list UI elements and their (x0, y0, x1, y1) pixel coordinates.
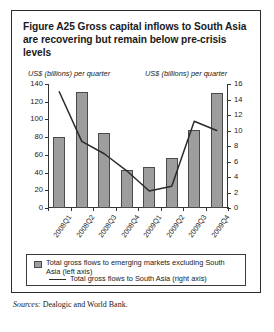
left-tick-label: 120 (30, 98, 43, 106)
x-tick-mark (206, 207, 207, 211)
plot-area: 020406080100120140 0246810121416 2008Q12… (48, 84, 228, 208)
left-tick-label: 0 (39, 204, 43, 212)
left-tick-label: 60 (35, 151, 43, 159)
x-category-label: 2008Q4 (119, 213, 141, 239)
right-tick-label: 6 (234, 158, 238, 166)
x-category-label: 2008Q2 (74, 213, 96, 239)
right-tick-label: 0 (234, 204, 238, 212)
left-tick-label: 100 (30, 115, 43, 123)
x-category-label: 2009Q4 (209, 213, 231, 239)
x-tick-mark (161, 207, 162, 211)
right-tick-label: 2 (234, 189, 238, 197)
legend: Total gross flows to emerging markets ex… (26, 254, 246, 286)
x-category-label: 2008Q3 (97, 213, 119, 239)
x-tick-mark (116, 207, 117, 211)
right-tick-label: 4 (234, 173, 238, 181)
left-tick-label: 40 (35, 169, 43, 177)
x-tick-mark (48, 207, 49, 211)
x-category-label: 2009Q3 (187, 213, 209, 239)
right-tick-label: 10 (234, 127, 242, 135)
figure-panel: Figure A25 Gross capital inflows to Sout… (11, 10, 261, 293)
x-tick-mark (228, 207, 229, 211)
legend-item-line: Total gross flows to South Asia (right a… (49, 275, 207, 284)
figure-title: Figure A25 Gross capital inflows to Sout… (23, 20, 249, 60)
right-tick-label: 16 (234, 80, 242, 88)
x-category-label: 2009Q2 (164, 213, 186, 239)
x-category-label: 2009Q1 (142, 213, 164, 239)
left-tick-label: 140 (30, 80, 43, 88)
line-series (48, 84, 228, 208)
right-axis-unit-label: US$ (billions) per quarter (145, 69, 227, 78)
right-tick-label: 14 (234, 96, 242, 104)
x-category-label: 2008Q1 (52, 213, 74, 239)
left-tick-label: 20 (35, 186, 43, 194)
bar-swatch-icon (34, 261, 42, 268)
right-tick-label: 8 (234, 142, 238, 150)
sources-note: Sources: Dealogic and World Bank. (13, 300, 128, 309)
x-tick-mark (183, 207, 184, 211)
legend-label-line: Total gross flows to South Asia (right a… (70, 275, 207, 284)
x-tick-mark (71, 207, 72, 211)
x-tick-mark (138, 207, 139, 211)
left-tick-label: 80 (35, 133, 43, 141)
right-tick-label: 12 (234, 111, 242, 119)
left-axis-unit-label: US$ (billions) per quarter (28, 69, 110, 78)
x-tick-mark (93, 207, 94, 211)
line-swatch-icon (49, 279, 66, 280)
sources-label: Sources: (13, 300, 41, 309)
sources-text: Dealogic and World Bank. (41, 300, 128, 309)
